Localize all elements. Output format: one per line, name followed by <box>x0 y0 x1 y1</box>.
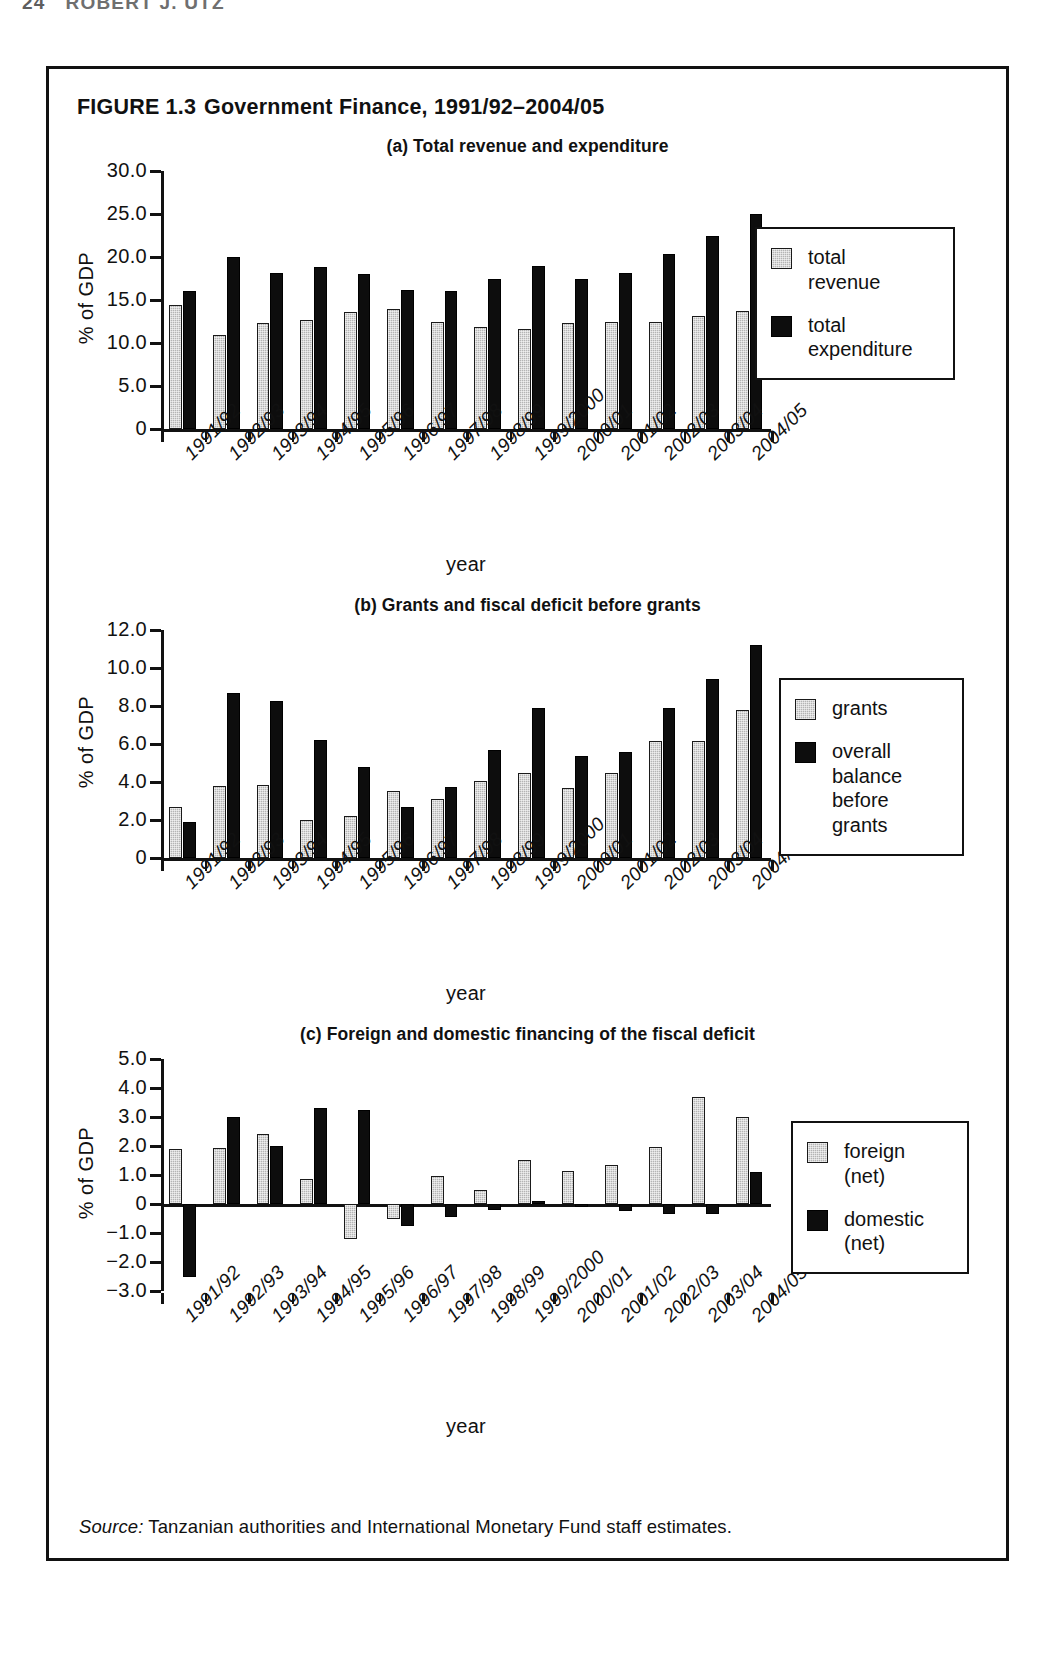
y-tick-label: 2.0 <box>118 808 147 831</box>
legend-item-overall-balance-before-grants[interactable]: overall balance before grants <box>795 739 946 838</box>
bar-group <box>248 171 292 429</box>
bar-group <box>684 1059 728 1291</box>
y-tick-label: 8.0 <box>118 694 147 717</box>
x-axis-label: year <box>161 1415 771 1438</box>
panel-a-title: (a) Total revenue and expenditure <box>49 136 1006 157</box>
bar <box>619 1204 632 1211</box>
bar <box>736 1117 749 1204</box>
panel-a: (a) Total revenue and expenditure % of G… <box>49 136 1006 579</box>
y-tick <box>150 1174 161 1177</box>
legend-swatch-total-expenditure <box>771 316 792 337</box>
y-tick-label: 15.0 <box>107 288 147 311</box>
y-tick-label: 5.0 <box>118 1047 147 1070</box>
y-tick <box>150 170 161 173</box>
y-tick-label: 4.0 <box>118 1076 147 1099</box>
bar <box>562 1171 575 1204</box>
bar <box>692 1097 705 1204</box>
y-tick-label: 10.0 <box>107 331 147 354</box>
y-tick <box>150 1058 161 1061</box>
legend-label-total-expenditure: total expenditure <box>808 313 913 363</box>
bar-group <box>640 630 684 858</box>
legend-item-total-expenditure[interactable]: total expenditure <box>771 313 937 363</box>
legend-label-total-revenue: total revenue <box>808 245 880 295</box>
bar <box>183 1204 196 1277</box>
figure-number: FIGURE 1.3 <box>77 95 196 119</box>
y-tick <box>150 213 161 216</box>
y-tick <box>150 705 161 708</box>
bar-group <box>248 630 292 858</box>
y-tick <box>150 342 161 345</box>
y-tick <box>150 629 161 632</box>
y-tick-label: −2.0 <box>106 1250 147 1273</box>
y-tick-label: −3.0 <box>106 1279 147 1302</box>
legend-item-grants[interactable]: grants <box>795 696 946 721</box>
chart-a: % of GDP05.010.015.020.025.030.01991/921… <box>49 171 1006 579</box>
legend-swatch-foreign-net <box>807 1142 828 1163</box>
y-tick-label: 0 <box>136 417 147 440</box>
bar <box>575 1204 588 1207</box>
bar <box>488 1204 501 1210</box>
y-tick-label: 3.0 <box>118 1105 147 1128</box>
legend-item-total-revenue[interactable]: total revenue <box>771 245 937 295</box>
legend-item-foreign-net[interactable]: foreign (net) <box>807 1139 951 1189</box>
bar-group <box>727 630 771 858</box>
legend-label-foreign-net: foreign (net) <box>844 1139 905 1189</box>
bar-group <box>335 171 379 429</box>
bar <box>300 1179 313 1204</box>
y-tick-label: 20.0 <box>107 245 147 268</box>
bar <box>605 1165 618 1204</box>
bar <box>183 822 196 858</box>
y-tick <box>150 857 161 860</box>
bar-group <box>422 630 466 858</box>
bar <box>532 1201 545 1204</box>
bar-group <box>640 171 684 429</box>
y-tick <box>150 256 161 259</box>
legend-swatch-grants <box>795 699 816 720</box>
y-tick <box>150 1232 161 1235</box>
legend-a: total revenuetotal expenditure <box>755 227 955 380</box>
y-tick <box>150 819 161 822</box>
y-tick <box>150 1203 161 1206</box>
bar-group <box>335 1059 379 1291</box>
y-tick-label: 12.0 <box>107 618 147 641</box>
y-tick-label: −1.0 <box>106 1221 147 1244</box>
running-head: 24ROBERT J. UTZ <box>22 0 225 14</box>
bar <box>314 1108 327 1204</box>
bar <box>445 1204 458 1217</box>
bar-group <box>510 1059 554 1291</box>
bar <box>474 1190 487 1204</box>
y-axis-label: % of GDP <box>75 696 98 788</box>
bar-group <box>466 630 510 858</box>
bar-group <box>292 171 336 429</box>
bar-group <box>727 1059 771 1291</box>
bar-group <box>335 630 379 858</box>
bar <box>750 1172 763 1204</box>
legend-swatch-total-revenue <box>771 248 792 269</box>
y-tick <box>150 299 161 302</box>
running-head-author: ROBERT J. UTZ <box>66 0 225 13</box>
bar-group <box>248 1059 292 1291</box>
bar-group <box>292 1059 336 1291</box>
y-tick-label: 6.0 <box>118 732 147 755</box>
bar-group <box>597 171 641 429</box>
legend-c: foreign (net)domestic (net) <box>791 1121 969 1274</box>
bar-group <box>510 171 554 429</box>
bar <box>387 1204 400 1219</box>
bar <box>431 1176 444 1204</box>
x-axis-label: year <box>161 553 771 576</box>
y-tick-label: 2.0 <box>118 1134 147 1157</box>
bar <box>358 1110 371 1204</box>
legend-item-domestic-net[interactable]: domestic (net) <box>807 1207 951 1257</box>
bar-group <box>379 1059 423 1291</box>
x-tick <box>161 431 164 442</box>
bar <box>257 1134 270 1204</box>
bar <box>401 1204 414 1226</box>
x-axis-label: year <box>161 982 771 1005</box>
source-word: Source: <box>79 1516 143 1537</box>
y-tick <box>150 781 161 784</box>
bar <box>213 1148 226 1204</box>
legend-label-overall-balance-before-grants: overall balance before grants <box>832 739 902 838</box>
y-tick <box>150 1145 161 1148</box>
x-tick <box>161 860 164 871</box>
plot-area: 02.04.06.08.010.012.0 <box>161 630 771 858</box>
